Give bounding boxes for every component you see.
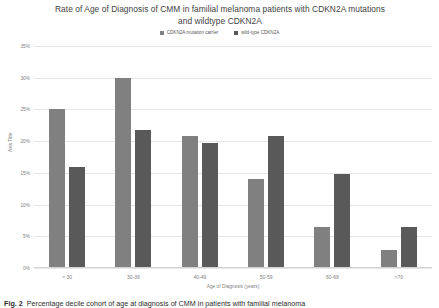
bar-groups: < 3030-3940-4950-5960-69>70: [34, 46, 432, 268]
legend-swatch-carrier: [160, 31, 164, 35]
bar[interactable]: [248, 179, 264, 268]
y-axis-tick-label: 20%: [20, 139, 30, 144]
legend-item-carrier[interactable]: CDKN2A mutation carrier: [160, 30, 219, 35]
figure-caption-text: Percentage decile cohort of age at diagn…: [27, 299, 305, 308]
bar[interactable]: [115, 78, 131, 268]
y-axis-tick-label: 10%: [20, 202, 30, 207]
figure-caption-label: Fig. 2: [4, 299, 23, 308]
chart-title: Rate of Age of Diagnosis of CMM in famil…: [55, 4, 385, 27]
y-axis-tick-label: 35%: [20, 44, 30, 49]
legend-item-wildtype[interactable]: wild-type CDKN2A: [234, 30, 279, 35]
plot-area: 35%30%25%20%15%10%5%0% < 3030-3940-4950-…: [34, 46, 432, 268]
x-axis-tick-label: 30-39: [127, 274, 140, 280]
bar[interactable]: [202, 143, 218, 268]
legend-label-wildtype: wild-type CDKN2A: [241, 30, 279, 35]
figure-container: Rate of Age of Diagnosis of CMM in famil…: [0, 0, 439, 308]
x-axis-tick-label: 50-59: [260, 274, 273, 280]
legend-swatch-wildtype: [234, 31, 238, 35]
x-axis-tick-label: >70: [395, 274, 403, 280]
x-axis-tick-label: 40-49: [193, 274, 206, 280]
bar[interactable]: [49, 109, 65, 268]
bar[interactable]: [69, 167, 85, 268]
y-axis-tick-label: 25%: [20, 107, 30, 112]
gridline: [34, 268, 432, 269]
bar-group: 50-59: [233, 46, 299, 268]
figure-caption: Fig. 2 Percentage decile cohort of age a…: [4, 299, 436, 308]
bar[interactable]: [135, 130, 151, 268]
bar[interactable]: [182, 136, 198, 268]
axis-baseline: [34, 267, 432, 268]
bar-group: 30-39: [100, 46, 166, 268]
x-axis-tick-label: < 30: [62, 274, 72, 280]
y-axis-tick-label: 30%: [20, 75, 30, 80]
bar-group: 40-49: [167, 46, 233, 268]
chart-legend: CDKN2A mutation carrier wild-type CDKN2A: [0, 30, 439, 35]
bar[interactable]: [314, 227, 330, 268]
x-axis-tick-label: 60-69: [326, 274, 339, 280]
y-axis-tick-label: 0%: [23, 266, 30, 271]
y-axis-tick-label: 15%: [20, 170, 30, 175]
x-axis-title: Age of Diagnosis (years): [34, 284, 432, 289]
y-axis-title: Axis Title: [8, 133, 13, 152]
bar-group: >70: [366, 46, 432, 268]
legend-label-carrier: CDKN2A mutation carrier: [167, 30, 219, 35]
bar-group: 60-69: [299, 46, 365, 268]
bar[interactable]: [381, 250, 397, 268]
bar[interactable]: [334, 174, 350, 268]
bar-group: < 30: [34, 46, 100, 268]
bar[interactable]: [401, 227, 417, 268]
bar[interactable]: [268, 136, 284, 268]
y-axis-tick-label: 5%: [23, 234, 30, 239]
